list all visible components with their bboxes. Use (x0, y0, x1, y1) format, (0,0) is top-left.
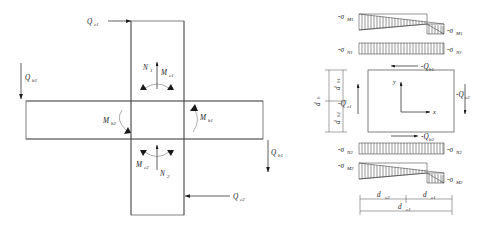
stress-distribution-diagram: -σ M1 -σ M1 -σ N1 -σ N1 y x -Q (314, 13, 470, 215)
q-top-sub: c1 (94, 22, 99, 27)
sigma-m1-right-label: -σ (447, 27, 453, 35)
m-top-sub: c1 (169, 73, 174, 78)
panel-zone-box: y x -Q b1 -Q b2 -Q c1 -Q c2 (338, 63, 470, 142)
m-beam-right-label: M (199, 114, 207, 122)
sigma-m1-right-sub: M1 (455, 31, 463, 36)
sigma-m1-left-label: -σ (338, 13, 344, 21)
sigma-m2-right-sub: M2 (455, 180, 463, 185)
m-bottom-label: M (135, 161, 143, 169)
shear-top-sub: b1 (429, 67, 434, 72)
column-outline (131, 21, 184, 215)
beam-moment-left: M b2 (102, 110, 131, 134)
horizontal-dimensions: d c2 d c1 d c1 (360, 191, 452, 215)
engineering-diagram: Q c1 Q b2 Q b1 Q c2 N 1 M (0, 0, 483, 231)
sigma-n2-right-sub: N2 (455, 150, 462, 155)
sigma-n1-right-sub: N1 (455, 50, 462, 55)
stress-block-moment-bottom: -σ M2 -σ M2 (338, 162, 463, 185)
stress-block-axial-top: -σ N1 -σ N1 (338, 43, 462, 55)
sigma-n2-left-label: -σ (338, 146, 344, 154)
sigma-n2-left-sub: N2 (346, 150, 353, 155)
joint-force-diagram: Q c1 Q b2 Q b1 Q c2 N 1 M (21, 18, 283, 215)
m-beam-right-sub: b1 (208, 118, 213, 123)
n-top-sub: 1 (150, 68, 152, 73)
dim-db1-sub: b1 (336, 78, 341, 83)
stress-block-moment-top: -σ M1 -σ M1 (338, 13, 463, 36)
q-left-sub: b2 (32, 78, 37, 83)
sigma-n1-right-label: -σ (447, 46, 453, 54)
sigma-m2-left-label: -σ (338, 162, 344, 170)
stress-block-axial-bottom: -σ N2 -σ N2 (338, 143, 462, 155)
m-bottom-sub: c2 (144, 165, 149, 170)
sigma-m2-right-label: -σ (447, 176, 453, 184)
q-left-label: Q (25, 74, 31, 82)
sigma-n1-left-sub: N1 (346, 50, 353, 55)
shear-arrow-right: Q b1 (268, 140, 283, 172)
n-bottom-label: N (159, 170, 166, 178)
axial-moment-bottom: M c2 N 2 (135, 145, 174, 179)
n-top-label: N (142, 64, 149, 72)
shear-right-sub: c2 (465, 95, 470, 100)
shear-arrow-bottom: Q c2 (185, 193, 245, 202)
dim-db2-label: d (334, 120, 342, 124)
dim-dc-total-sub: c1 (406, 207, 411, 212)
shear-bottom-sub: b2 (429, 137, 434, 142)
dim-dc-total-label: d (398, 203, 402, 211)
sigma-m1-left-sub: M1 (346, 17, 354, 22)
dim-db-label: d (314, 102, 322, 106)
shear-left-sub: c1 (347, 104, 352, 109)
n-bottom-sub: 2 (167, 174, 170, 179)
q-bottom-label: Q (233, 193, 239, 201)
q-bottom-sub: c2 (240, 197, 245, 202)
dim-db-sub: b (316, 96, 321, 99)
m-beam-left-sub: b2 (111, 121, 116, 126)
dim-dc2-label: d (377, 191, 381, 199)
shear-arrow-top: Q c1 (87, 18, 131, 27)
sigma-n2-right-label: -σ (447, 146, 453, 154)
dim-dc2-sub: c2 (385, 195, 390, 200)
sigma-m2-left-sub: M2 (346, 166, 354, 171)
q-top-label: Q (87, 18, 93, 26)
sigma-n1-left-label: -σ (338, 46, 344, 54)
axis-x-label: x (432, 108, 436, 115)
m-beam-left-label: M (102, 117, 110, 125)
shear-arrow-left: Q b2 (21, 63, 37, 99)
m-top-label: M (160, 69, 168, 77)
beam-moment-right: M b1 (190, 104, 213, 132)
shear-right-label: -Q (456, 91, 464, 99)
q-right-label: Q (271, 149, 277, 157)
dim-db1-label: d (334, 86, 342, 90)
axial-moment-top: N 1 M c1 (140, 62, 174, 90)
axis-y-label: y (392, 78, 396, 85)
dim-dc1-label: d (423, 191, 427, 199)
dim-db2-sub: b2 (336, 112, 341, 117)
vertical-dimensions: d b d b1 d b2 (314, 70, 347, 132)
q-right-sub: b1 (278, 153, 283, 158)
beam-outline (26, 101, 263, 139)
dim-dc1-sub: c1 (431, 195, 436, 200)
